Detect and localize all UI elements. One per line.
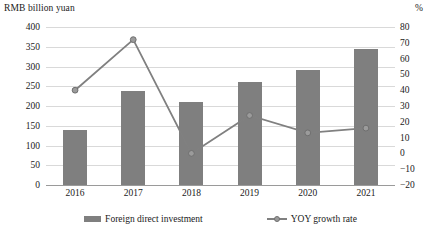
line-marker — [72, 87, 78, 93]
line-path — [75, 40, 366, 154]
line-marker — [189, 151, 195, 157]
x-axis-tick: 2019 — [221, 188, 279, 198]
left-axis-tick: 400 — [6, 22, 40, 32]
right-axis-tick: 0 — [400, 148, 436, 158]
chart-legend: Foreign direct investment YOY growth rat… — [0, 209, 441, 229]
line-marker — [247, 113, 253, 119]
bar-swatch-icon — [84, 216, 101, 222]
right-axis-tick: 50 — [400, 69, 436, 79]
x-axis-tick: 2016 — [46, 188, 104, 198]
left-axis-tick: 50 — [6, 160, 40, 170]
legend-label-yoy-growth-rate: YOY growth rate — [291, 214, 357, 224]
plot-area — [46, 27, 395, 185]
right-axis-tick: −20 — [400, 180, 436, 190]
right-axis-tick: 60 — [400, 54, 436, 64]
line-series-yoy-growth-rate — [46, 27, 395, 185]
left-axis-tick: 250 — [6, 81, 40, 91]
legend-item-yoy-growth-rate: YOY growth rate — [267, 214, 357, 224]
left-axis-tick: 200 — [6, 101, 40, 111]
right-axis-tick: 30 — [400, 101, 436, 111]
right-axis-tick: −10 — [400, 164, 436, 174]
left-axis-tick: 100 — [6, 141, 40, 151]
left-axis-title: RMB billion yuan — [4, 3, 75, 13]
line-marker — [363, 125, 369, 131]
x-axis-tick: 2018 — [162, 188, 220, 198]
legend-label-foreign-direct-investment: Foreign direct investment — [105, 214, 203, 224]
left-axis-tick: 350 — [6, 42, 40, 52]
line-marker — [305, 130, 311, 136]
left-axis-tick: 150 — [6, 121, 40, 131]
x-axis-tick: 2021 — [337, 188, 395, 198]
chart-container: RMB billion yuan % 400350300250200150100… — [0, 0, 441, 232]
line-marker — [130, 37, 136, 43]
right-axis-tick: 10 — [400, 133, 436, 143]
right-axis-tick: 40 — [400, 85, 436, 95]
right-axis-tick: 20 — [400, 117, 436, 127]
gridline — [46, 185, 395, 186]
legend-item-foreign-direct-investment: Foreign direct investment — [84, 214, 203, 224]
left-axis-tick: 0 — [6, 180, 40, 190]
right-axis-title: % — [415, 3, 423, 13]
left-axis-tick: 300 — [6, 62, 40, 72]
right-axis-tick: 80 — [400, 22, 436, 32]
x-axis-tick: 2017 — [104, 188, 162, 198]
right-axis-tick: 70 — [400, 38, 436, 48]
x-axis-tick: 2020 — [279, 188, 337, 198]
line-marker-swatch-icon — [267, 215, 287, 223]
